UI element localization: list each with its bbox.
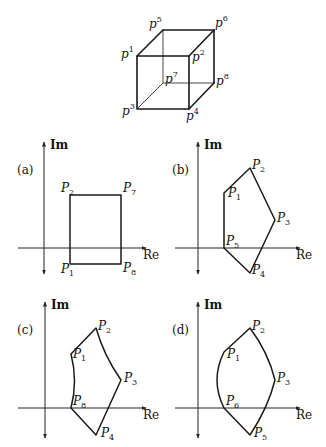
cube-label-p8: p8	[216, 72, 229, 88]
vertex-label-P2: P2	[251, 319, 265, 335]
cube-diagram: p5 p6 p1 p2 p7 p8 p3 p4	[121, 14, 229, 123]
vertex-label-P1: P1	[72, 347, 86, 363]
cube-label-p4: p4	[186, 107, 199, 123]
vertex-label-P2: P2	[251, 158, 265, 174]
imag-axis-label: Im	[50, 138, 69, 152]
panel-label: (d)	[172, 323, 189, 337]
panel-label: (b)	[172, 163, 189, 177]
vertex-label-P3: P3	[123, 371, 137, 387]
cube-label-p1: p1	[121, 45, 134, 61]
imag-axis-label: Im	[204, 138, 223, 152]
vertex-label-P1: P1	[226, 347, 240, 363]
real-axis-label: Re	[143, 408, 159, 422]
vertex-label-P1: P1	[227, 186, 241, 202]
panel-c: Im Re (c) P2 P1 P3 P8 P4	[17, 298, 159, 442]
vertex-label-P6: P6	[225, 394, 239, 410]
panel-a: Im Re (a) P2 P7 P1 P8	[17, 138, 159, 278]
vertex-label-P3: P3	[276, 211, 290, 227]
real-axis-label: Re	[296, 248, 312, 262]
vertex-label-P2: P2	[60, 181, 74, 197]
vertex-label-P8: P8	[122, 261, 136, 277]
vertex-label-P5: P5	[225, 234, 239, 250]
panel-label: (c)	[17, 323, 33, 337]
region-curved-pentagon	[71, 328, 121, 435]
vertex-label-P2: P2	[97, 319, 111, 335]
imag-axis-label: Im	[51, 298, 70, 312]
region-pentagon	[224, 168, 275, 273]
panel-d: Im Re (d) P2 P1 P3 P6 P5	[172, 298, 312, 442]
vertex-label-P3: P3	[276, 371, 290, 387]
vertex-label-P8: P8	[72, 394, 86, 410]
cube-edge-p4-p8	[189, 83, 214, 109]
region-rectangle	[70, 195, 121, 264]
cube-label-p7: p7	[165, 70, 178, 86]
vertex-label-P4: P4	[100, 426, 114, 442]
cube-label-p3: p3	[122, 102, 135, 118]
vertex-label-P7: P7	[122, 181, 136, 197]
vertex-label-P4: P4	[251, 263, 265, 279]
cube-hidden-edge-p7-p3	[137, 83, 163, 109]
real-axis-label: Re	[143, 248, 159, 262]
region-curved-pentagon	[217, 328, 275, 435]
cube-label-p2: p2	[192, 48, 205, 64]
imag-axis-label: Im	[204, 298, 223, 312]
cube-edge-p1-p5	[137, 30, 163, 56]
real-axis-label: Re	[296, 408, 312, 422]
cube-label-p5: p5	[149, 15, 162, 31]
panel-label: (a)	[17, 163, 34, 177]
cube-label-p6: p6	[215, 14, 228, 30]
vertex-label-P5: P5	[253, 426, 267, 442]
panel-b: Im Re (b) P2 P1 P3 P5 P4	[172, 138, 312, 279]
figure: p5 p6 p1 p2 p7 p8 p3 p4 Im Re (a) P2 P7 …	[0, 0, 326, 447]
